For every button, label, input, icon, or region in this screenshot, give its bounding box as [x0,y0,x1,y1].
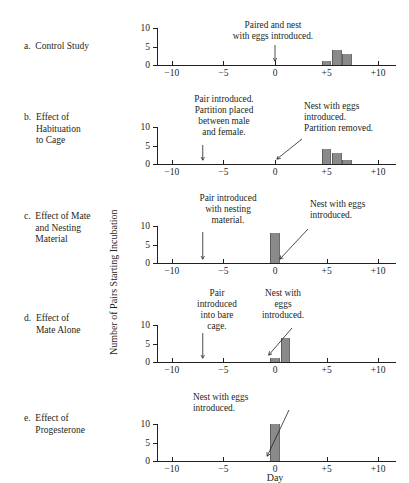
x-tick-e--5 [223,457,224,461]
x-tick-label-e--10: −10 [164,464,179,474]
x-tick-e-10 [378,457,379,461]
x-tick-e-5 [327,457,328,461]
y-tick-e-5 [153,443,157,444]
annotation-c-pair-introduced-with-nesting-material: Pair introduced with nesting material. [176,193,280,226]
y-tick-label-e-10: 10 [136,419,150,429]
y-tick-label-e-0: 0 [136,456,150,466]
x-tick-label-e--5: −5 [218,464,228,474]
annotation-a-paired-and-nest-introduced: Paired and nest with eggs introduced. [203,20,343,42]
x-tick-label-e-0: 0 [273,464,278,474]
y-tick-label-e-5: 5 [136,438,150,448]
annotation-d-pair-introduced-into-bare-cage: Pair introduced into bare cage. [186,288,248,332]
x-tick-e--10 [172,457,173,461]
x-tick-label-e-10: +10 [371,464,386,474]
annotation-c-nest-with-eggs-introduced: Nest with eggs introduced. [310,199,400,221]
annotation-e-nest-with-eggs-introduced: Nest with eggs introduced. [193,392,287,414]
bar-e-0 [270,424,280,461]
y-tick-e-0 [153,461,157,462]
annotation-b-pair-introduced-partition-placed: Pair introduced. Partition placed betwee… [176,94,272,138]
y-tick-e-10 [153,424,157,425]
x-tick-label-e-5: +5 [322,464,332,474]
annotation-d-nest-with-eggs-introduced: Nest with eggs introduced. [250,288,316,321]
annotation-b-nest-introduced-partition-removed: Nest with eggs introduced. Partition rem… [304,101,409,134]
x-axis-e [157,461,396,462]
y-axis-e [157,424,158,462]
